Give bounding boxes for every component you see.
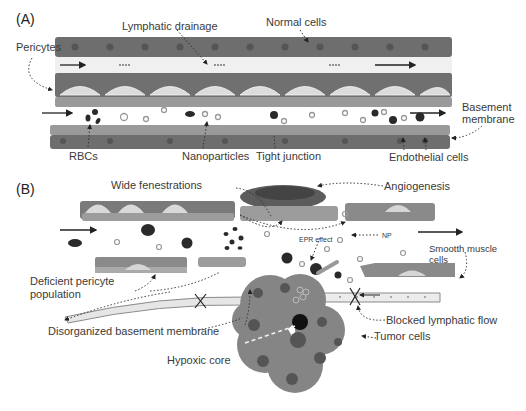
diagram-canvas [0, 0, 526, 411]
label-tumor-cells: Tumor cells [374, 331, 430, 342]
label-smooth-muscle-1: Smootth muscle [429, 244, 497, 254]
label-rbcs: RBCs [69, 151, 98, 162]
label-disorganized-basement-membrane: Disorganized basement membrane [48, 326, 219, 337]
label-basement-membrane-1: Basement [462, 102, 512, 113]
label-blocked-lymphatic-flow: Blocked lymphatic flow [386, 315, 497, 326]
label-epr-effect: EPR effect [299, 236, 332, 243]
label-nanoparticles: Nanoparticles [182, 151, 249, 162]
label-np: NP [382, 232, 392, 239]
label-normal-cells: Normal cells [266, 17, 327, 28]
label-endothelial-cells: Endothelial cells [389, 152, 469, 163]
panel-b-tag: (B) [16, 181, 35, 197]
label-deficient-pericyte-1: Deficient pericyte [30, 276, 114, 287]
label-hypoxic-core: Hypoxic core [167, 355, 231, 366]
label-deficient-pericyte-2: population [30, 289, 81, 300]
panel-a-vessel [42, 37, 452, 149]
label-basement-membrane-2: membrane [462, 114, 515, 125]
label-smooth-muscle-2: cells [429, 255, 448, 265]
tumor-mass [232, 262, 345, 393]
label-pericytes: Pericytes [16, 42, 61, 53]
label-tight-junction: Tight junction [256, 151, 321, 162]
label-wide-fenestrations: Wide fenestrations [111, 180, 202, 191]
label-lymphatic-drainage: Lymphatic drainage [122, 21, 218, 32]
panel-a-tag: (A) [16, 11, 35, 27]
label-angiogenesis: Angiogenesis [384, 181, 450, 192]
